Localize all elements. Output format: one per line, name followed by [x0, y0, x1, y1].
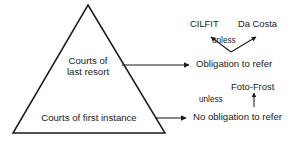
- bottom-tier-label: Courts of first instance: [25, 113, 153, 124]
- bottom-unless-label: unless: [199, 95, 223, 104]
- bottom-outcome-label: No obligation to refer: [193, 112, 282, 123]
- top-outcome-label: Obligation to refer: [196, 59, 272, 70]
- case-da-costa-label: Da Costa: [238, 19, 277, 30]
- top-tier-label: Courts of last resort: [47, 56, 129, 77]
- case-cilfit-label: CILFIT: [190, 19, 219, 30]
- pyramid-diagram: Courts of last resort Courts of first in…: [0, 0, 294, 141]
- top-tier-label-line2: last resort: [47, 67, 129, 78]
- case-foto-frost-label: Foto-Frost: [231, 82, 274, 93]
- top-unless-label: unless: [212, 36, 236, 45]
